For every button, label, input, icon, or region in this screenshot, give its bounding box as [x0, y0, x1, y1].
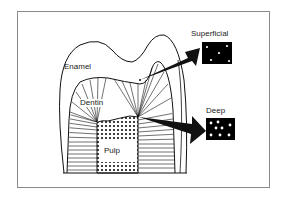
label-dentin: Dentin — [79, 99, 104, 107]
label-pulp: Pulp — [104, 147, 120, 155]
dentin-tubules — [70, 64, 171, 122]
enamel-inner-right — [178, 60, 182, 173]
arrow-superficial-icon — [139, 48, 200, 81]
label-enamel: Enamel — [64, 63, 91, 71]
pulp-region — [95, 110, 140, 175]
superficial-inset — [202, 42, 232, 64]
label-superficial: Superficial — [191, 30, 228, 38]
label-deep: Deep — [206, 107, 225, 115]
tooth-diagram — [0, 0, 286, 200]
deep-inset — [206, 118, 235, 140]
left-dentin-lines — [60, 112, 97, 170]
